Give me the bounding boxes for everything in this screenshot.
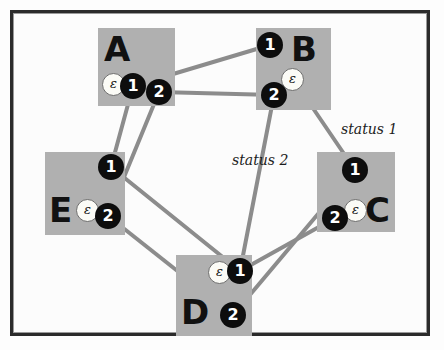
port-a-1[interactable]: 1 — [121, 74, 145, 98]
epsilon-marker-b: ε — [281, 68, 304, 91]
graph-edge-b2-d1 — [240, 95, 274, 271]
node-label-e: E — [49, 193, 71, 227]
port-d-1[interactable]: 1 — [228, 259, 252, 283]
port-d-2[interactable]: 2 — [221, 303, 245, 327]
port-c-2[interactable]: 2 — [323, 206, 347, 230]
annotation-status-2: status 2 — [232, 152, 288, 168]
annotation-status-1: status 1 — [341, 121, 397, 137]
port-e-2[interactable]: 2 — [96, 204, 120, 228]
node-label-a: A — [104, 32, 129, 66]
port-b-1[interactable]: 1 — [258, 33, 282, 57]
port-b-2[interactable]: 2 — [262, 83, 286, 107]
port-a-2[interactable]: 2 — [147, 80, 171, 104]
node-label-c: C — [365, 193, 389, 227]
node-label-d: D — [181, 295, 208, 329]
port-c-1[interactable]: 1 — [343, 158, 367, 182]
epsilon-marker-c: ε — [344, 199, 367, 222]
diagram-canvas: ABCDEε12ε12ε12ε12ε12 status 1status 2 — [0, 0, 444, 350]
node-label-b: B — [291, 32, 316, 66]
port-e-1[interactable]: 1 — [99, 155, 123, 179]
